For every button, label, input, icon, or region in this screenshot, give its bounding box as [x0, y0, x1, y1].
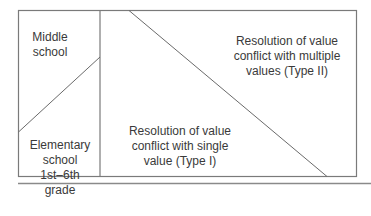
middle-school-line-2: school: [24, 45, 76, 60]
type-two-line-3: values (Type II): [222, 64, 352, 79]
school-diagonal: [19, 57, 101, 132]
type-one-line-2: conflict with single: [120, 139, 240, 154]
middle-school-line-1: Middle: [24, 30, 76, 45]
diagram-canvas: Middle school Elementary school 1st–6th …: [0, 0, 371, 216]
type-one-line-1: Resolution of value: [120, 124, 240, 139]
middle-school-label: Middle school: [24, 30, 76, 60]
type-two-line-1: Resolution of value: [222, 34, 352, 49]
type-one-label: Resolution of value conflict with single…: [120, 124, 240, 169]
elementary-line-1: Elementary: [20, 138, 100, 153]
elementary-line-2: school: [20, 153, 100, 168]
type-one-line-3: value (Type I): [120, 154, 240, 169]
elementary-line-3: 1st–6th: [20, 168, 100, 183]
type-two-line-2: conflict with multiple: [222, 49, 352, 64]
elementary-line-4: grade: [20, 183, 100, 198]
elementary-school-label: Elementary school 1st–6th grade: [20, 138, 100, 198]
type-two-label: Resolution of value conflict with multip…: [222, 34, 352, 79]
